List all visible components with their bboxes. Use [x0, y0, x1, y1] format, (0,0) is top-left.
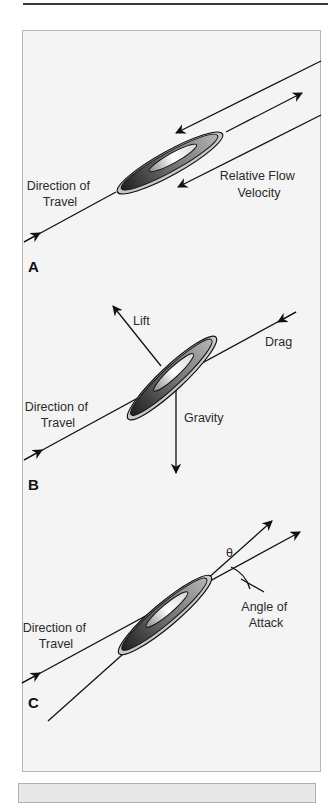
label-gravity: Gravity	[184, 411, 224, 425]
label-drag: Drag	[265, 335, 292, 349]
angle-leader-line	[241, 579, 264, 592]
label-relative-flow: Relative Flow Velocity	[220, 169, 299, 200]
flow-arrow-upper	[176, 61, 321, 133]
disc-a	[112, 123, 229, 202]
label-direction-c: Direction of Travel	[23, 621, 90, 651]
label-lift: Lift	[133, 314, 150, 328]
travel-arrow-a	[24, 233, 40, 242]
label-direction-a: Direction of Travel	[27, 179, 94, 209]
angle-arc	[231, 567, 250, 589]
panel-c: θ Angle of Attack Direction of Travel C	[22, 521, 300, 721]
travel-forward-arrow-a	[226, 93, 302, 132]
panel-letter-c: C	[28, 694, 39, 711]
travel-arrow-b	[24, 450, 42, 460]
drag-arrow	[278, 312, 296, 322]
panel-letter-b: B	[28, 476, 39, 493]
panel-letter-a: A	[28, 258, 39, 275]
label-theta: θ	[226, 546, 233, 560]
label-direction-b: Direction of Travel	[25, 400, 92, 430]
panel-b: Lift Drag Gravity Direction of Travel B	[24, 306, 296, 493]
panel-a: Direction of Travel Relative Flow Veloci…	[24, 61, 321, 275]
disc-c	[111, 567, 218, 663]
label-angle-of-attack: Angle of Attack	[241, 600, 290, 630]
travel-arrow-c	[22, 673, 40, 683]
